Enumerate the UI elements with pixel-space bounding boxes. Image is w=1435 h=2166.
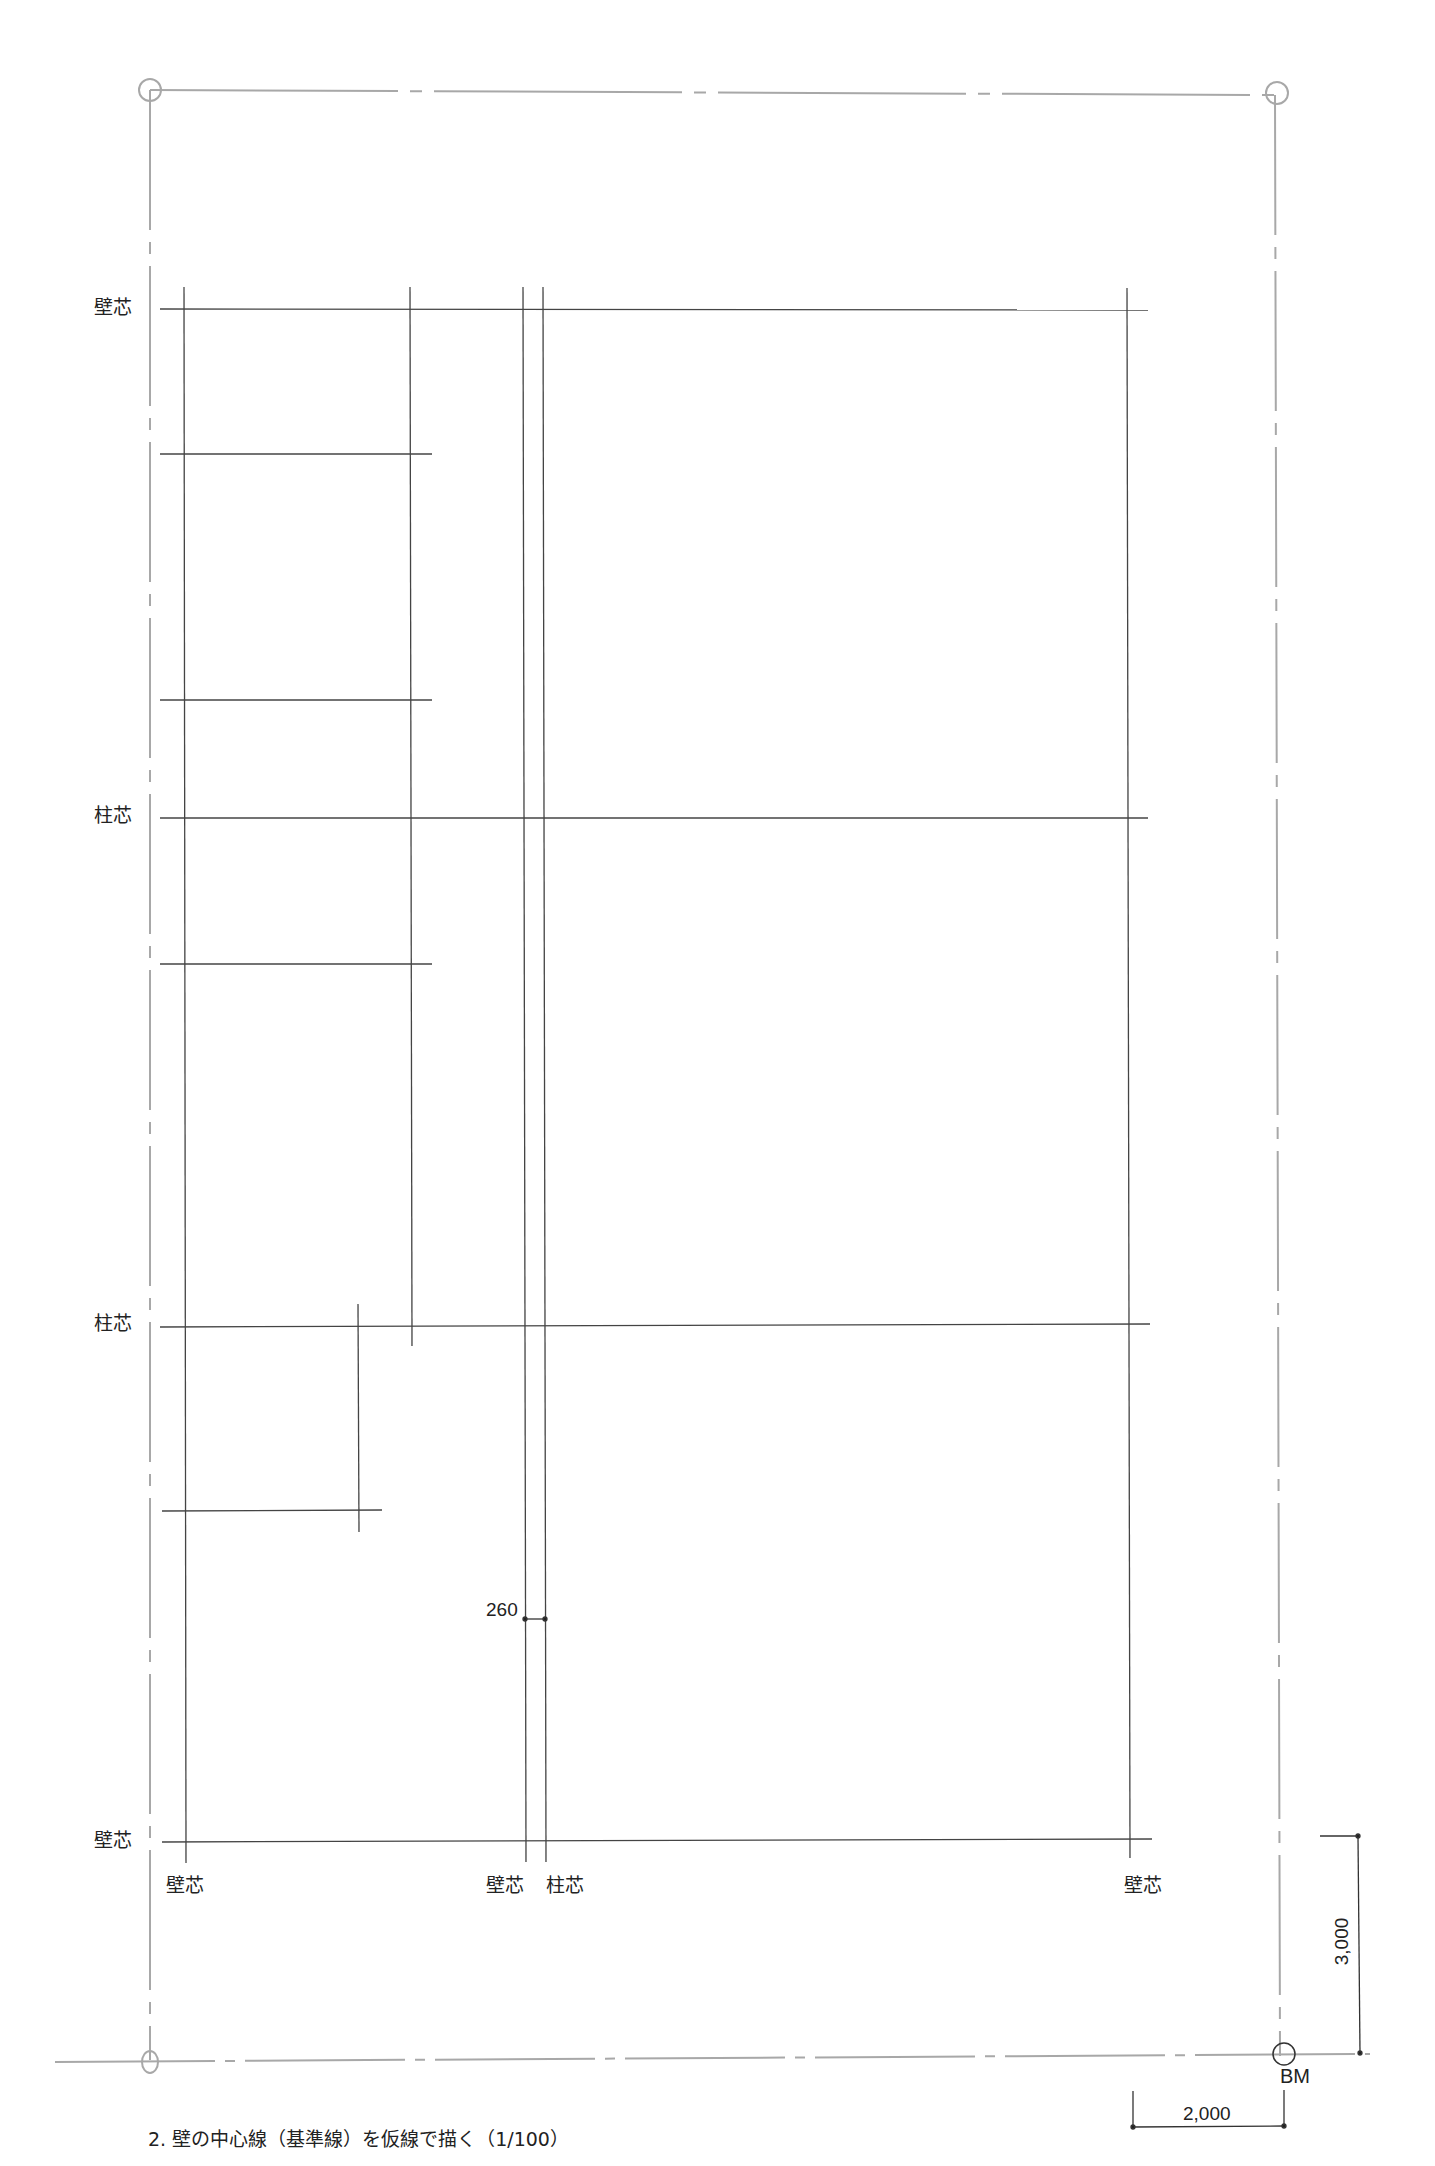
- dimension-260: [523, 1617, 547, 1621]
- label-wall-center-middle: 壁芯: [486, 1876, 524, 1895]
- figure-caption: 2. 壁の中心線（基準線）を仮線で描く（1/100）: [148, 2124, 569, 2151]
- site-boundary: [55, 79, 1370, 2073]
- label-wall-center-right: 壁芯: [1124, 1876, 1162, 1895]
- benchmark-label: BM: [1280, 2066, 1310, 2086]
- label-column-center-2: 柱芯: [94, 1314, 132, 1333]
- label-column-center-1: 柱芯: [94, 806, 132, 825]
- dimension-3000-label: 3,000: [1332, 1917, 1351, 1967]
- dimension-2000-label: 2,000: [1183, 2104, 1231, 2123]
- label-wall-center-top: 壁芯: [94, 298, 132, 317]
- label-column-center-middle: 柱芯: [546, 1876, 584, 1895]
- floor-plan-drawing: [0, 0, 1435, 2166]
- label-wall-center-left: 壁芯: [166, 1876, 204, 1895]
- wall-center-lines: [160, 287, 1152, 1863]
- corner-marker-tr: [1266, 82, 1288, 104]
- label-wall-center-bottom: 壁芯: [94, 1831, 132, 1850]
- dimension-260-label: 260: [486, 1600, 518, 1619]
